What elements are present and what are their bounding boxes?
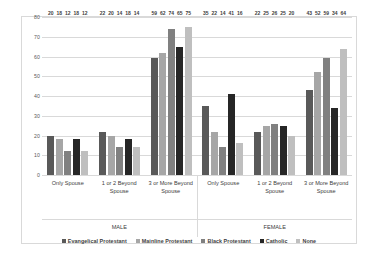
bar[interactable]: 41 xyxy=(228,94,235,175)
bar[interactable]: 34 xyxy=(331,108,338,175)
bar-value-label: 18 xyxy=(74,11,80,16)
y-axis-tick-label: 0 xyxy=(37,172,40,178)
legend-swatch-icon xyxy=(136,239,140,243)
y-axis-tick-label: 50 xyxy=(34,73,40,79)
bar-slot: 22 xyxy=(99,17,106,175)
bar-slot: 64 xyxy=(340,17,347,175)
bar-value-label: 59 xyxy=(323,11,329,16)
bar-value-label: 25 xyxy=(280,11,286,16)
category-axis-label: Only Spouse xyxy=(42,176,94,219)
bar-slot: 22 xyxy=(254,17,261,175)
bar[interactable]: 59 xyxy=(151,58,158,175)
bar[interactable]: 25 xyxy=(263,126,270,175)
bar-value-label: 20 xyxy=(48,11,54,16)
y-axis-tick-label: 70 xyxy=(34,34,40,40)
y-axis-tick-label: 10 xyxy=(34,152,40,158)
bar-value-label: 65 xyxy=(177,11,183,16)
bar-value-label: 20 xyxy=(108,11,114,16)
bar[interactable]: 18 xyxy=(125,139,132,175)
bar-value-label: 75 xyxy=(185,11,191,16)
bar-group: 5962746575 xyxy=(145,17,197,175)
bar-slot: 16 xyxy=(236,17,243,175)
bar[interactable]: 74 xyxy=(168,29,175,175)
category-axis-group: Only Spouse1 or 2 Beyond Spouse3 or More… xyxy=(42,176,197,219)
bar[interactable]: 35 xyxy=(202,106,209,175)
bar-slot: 14 xyxy=(116,17,123,175)
bar[interactable]: 65 xyxy=(176,47,183,175)
legend-label: Evangelical Protestant xyxy=(68,238,127,244)
bar[interactable]: 59 xyxy=(323,58,330,175)
bar-value-label: 35 xyxy=(203,11,209,16)
y-axis: 01020304050607080 xyxy=(22,17,42,175)
bar-value-label: 64 xyxy=(340,11,346,16)
bar-group: 2225262520 xyxy=(249,17,301,175)
gender-block-male: 201812181222201418145962746575 xyxy=(42,17,197,175)
bar[interactable]: 52 xyxy=(314,72,321,175)
legend-item[interactable]: Mainline Protestant xyxy=(136,238,193,244)
y-axis-tick-label: 30 xyxy=(34,113,40,119)
bar[interactable]: 26 xyxy=(271,124,278,175)
legend-swatch-icon xyxy=(62,239,66,243)
bar-value-label: 52 xyxy=(315,11,321,16)
legend-label: None xyxy=(302,238,316,244)
bar[interactable]: 22 xyxy=(254,132,261,175)
bar-value-label: 22 xyxy=(212,11,218,16)
bar[interactable]: 20 xyxy=(47,136,54,176)
bar[interactable]: 12 xyxy=(64,151,71,175)
legend-item[interactable]: Catholic xyxy=(260,238,288,244)
bar-group: 2018121812 xyxy=(42,17,94,175)
bar-slot: 59 xyxy=(323,17,330,175)
legend-item[interactable]: None xyxy=(296,238,316,244)
bar[interactable]: 18 xyxy=(56,139,63,175)
bar-value-label: 14 xyxy=(134,11,140,16)
bar-value-label: 62 xyxy=(160,11,166,16)
category-axis-label: 1 or 2 Beyond Spouse xyxy=(94,176,146,219)
bar-slot: 25 xyxy=(280,17,287,175)
plot-canvas: 2018121812222014181459627465753522144116… xyxy=(42,17,352,175)
bar-slot: 41 xyxy=(228,17,235,175)
category-axis: Only Spouse1 or 2 Beyond Spouse3 or More… xyxy=(42,175,352,219)
bar[interactable]: 22 xyxy=(211,132,218,175)
legend-swatch-icon xyxy=(260,239,264,243)
bar-slot: 20 xyxy=(288,17,295,175)
bar[interactable]: 14 xyxy=(219,147,226,175)
bar[interactable]: 22 xyxy=(99,132,106,175)
bar-slot: 74 xyxy=(168,17,175,175)
gender-block-female: 352214411622252625204352593464 xyxy=(197,17,352,175)
bar[interactable]: 14 xyxy=(133,147,140,175)
bar-value-label: 18 xyxy=(57,11,63,16)
bar-group: 4352593464 xyxy=(300,17,352,175)
category-axis-label: 3 or More Beyond Spouse xyxy=(145,176,197,219)
bar[interactable]: 43 xyxy=(306,90,313,175)
bar[interactable]: 16 xyxy=(236,143,243,175)
bar[interactable]: 25 xyxy=(280,126,287,175)
bar-slot: 20 xyxy=(47,17,54,175)
bar-slot: 25 xyxy=(263,17,270,175)
bar-value-label: 14 xyxy=(117,11,123,16)
bar[interactable]: 62 xyxy=(159,53,166,175)
bar-slot: 62 xyxy=(159,17,166,175)
legend-label: Catholic xyxy=(266,238,288,244)
plot-area: 01020304050607080 2018121812222014181459… xyxy=(22,17,356,175)
bar[interactable]: 12 xyxy=(81,151,88,175)
bar[interactable]: 14 xyxy=(116,147,123,175)
bar-value-label: 74 xyxy=(168,11,174,16)
bar-slot: 35 xyxy=(202,17,209,175)
bar-slot: 52 xyxy=(314,17,321,175)
bar-slot: 65 xyxy=(176,17,183,175)
bar[interactable]: 20 xyxy=(288,136,295,176)
y-axis-tick-label: 40 xyxy=(34,93,40,99)
legend-item[interactable]: Black Protestant xyxy=(201,238,250,244)
bar[interactable]: 18 xyxy=(73,139,80,175)
bar-value-label: 59 xyxy=(151,11,157,16)
bar-slot: 18 xyxy=(56,17,63,175)
bar[interactable]: 75 xyxy=(185,27,192,175)
legend-item[interactable]: Evangelical Protestant xyxy=(62,238,127,244)
bar-slot: 14 xyxy=(133,17,140,175)
bar-value-label: 12 xyxy=(65,11,71,16)
bar-value-label: 18 xyxy=(125,11,131,16)
legend-swatch-icon xyxy=(201,239,205,243)
category-axis-label: 3 or More Beyond Spouse xyxy=(301,176,353,219)
bar[interactable]: 20 xyxy=(108,136,115,176)
bar[interactable]: 64 xyxy=(340,49,347,175)
